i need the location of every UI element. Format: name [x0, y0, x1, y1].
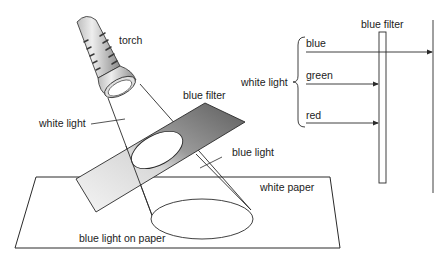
diagram-canvas [0, 0, 447, 266]
label-torch: torch [119, 35, 142, 46]
blue-filter-rect [379, 32, 386, 183]
label-blue-light: blue light [232, 147, 274, 158]
paper-beam-ellipse [151, 199, 253, 239]
label-right-blue-filter: blue filter [361, 19, 404, 30]
label-white-light: white light [39, 118, 86, 129]
label-blue-light-on-paper: blue light on paper [79, 233, 165, 244]
torch-icon [77, 16, 139, 102]
label-ray-green: green [306, 70, 333, 81]
label-ray-red: red [306, 110, 321, 121]
label-ray-blue: blue [306, 38, 326, 49]
label-right-white-light: white light [241, 77, 288, 88]
brace [293, 37, 305, 127]
label-white-paper: white paper [260, 182, 314, 193]
label-blue-filter: blue filter [183, 90, 226, 101]
